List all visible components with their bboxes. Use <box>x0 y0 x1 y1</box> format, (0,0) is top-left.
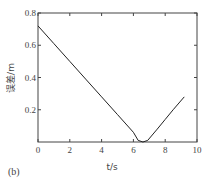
y-tick-label: 0.6 <box>25 40 37 50</box>
panel-label: (b) <box>8 166 20 177</box>
x-tick-label: 2 <box>68 145 73 155</box>
y-axis-label: 误差/m <box>5 63 16 93</box>
axis-ticks: 02468100.20.40.60.8 <box>25 8 202 155</box>
x-tick-label: 8 <box>163 145 168 155</box>
y-tick-label: 0.8 <box>25 8 37 18</box>
error-curve <box>38 26 184 142</box>
x-tick-label: 0 <box>36 145 41 155</box>
x-axis-label: t/s <box>106 162 118 172</box>
x-tick-label: 6 <box>131 145 136 155</box>
x-tick-label: 4 <box>99 145 104 155</box>
error-chart: 02468100.20.40.60.8 t/s 误差/m <box>0 0 210 186</box>
plot-frame <box>38 13 197 142</box>
x-tick-label: 10 <box>193 145 203 155</box>
y-tick-label: 0.4 <box>25 73 37 83</box>
y-tick-label: 0.2 <box>25 105 36 115</box>
